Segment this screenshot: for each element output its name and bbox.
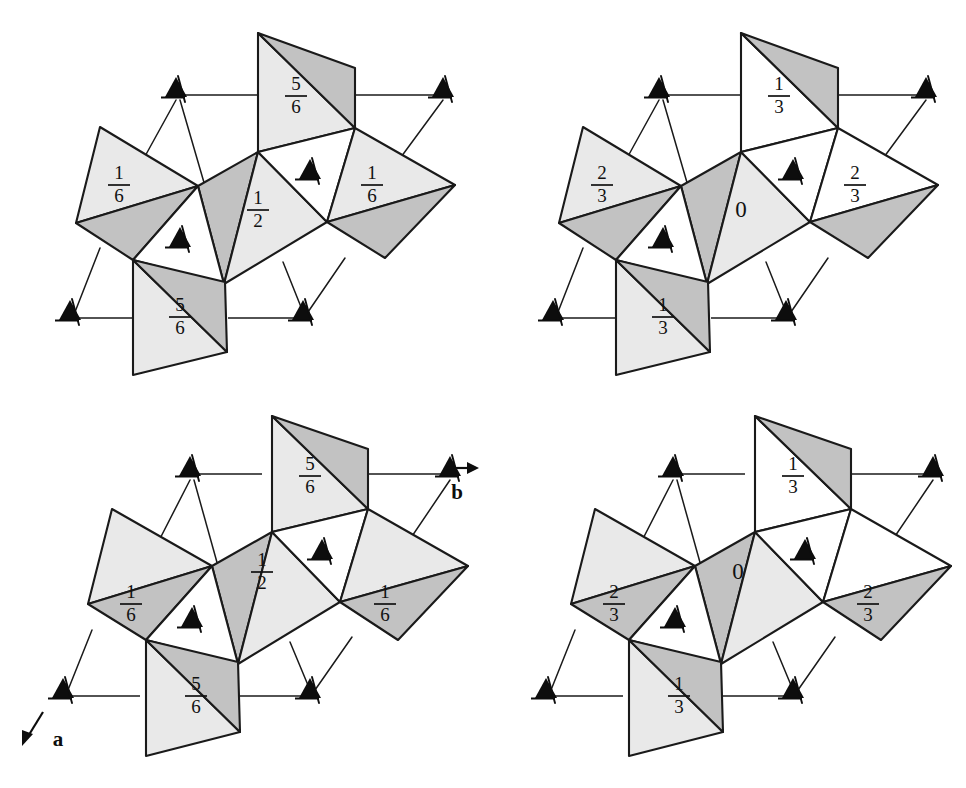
axis-b: b	[445, 462, 479, 504]
panel-bottom-left: 5 6 1 6 1 2 1 6 5 6	[22, 416, 468, 756]
svg-text:2: 2	[597, 162, 607, 183]
triad-axis-bottom-right	[295, 677, 321, 703]
svg-text:3: 3	[597, 185, 607, 206]
triad-axis-bottom-left	[531, 677, 557, 703]
svg-text:6: 6	[291, 96, 301, 117]
label-center-tetrahedron: 0	[735, 197, 747, 222]
triad-axis-bottom-right	[288, 299, 314, 325]
svg-text:3: 3	[850, 185, 860, 206]
svg-text:1: 1	[658, 294, 668, 315]
svg-text:2: 2	[257, 572, 267, 593]
triad-axis-bottom-right	[771, 299, 797, 325]
svg-text:1: 1	[774, 73, 784, 94]
figure-root: 5 6 1 6 1 2 1 6 5 6	[0, 0, 966, 788]
triad-axis-top-right	[911, 76, 937, 102]
svg-text:6: 6	[114, 185, 124, 206]
svg-text:b: b	[451, 480, 463, 504]
triad-axis-bottom-left	[48, 677, 74, 703]
svg-text:0: 0	[732, 559, 744, 584]
panel-bottom-right: 1 3 2 3 0 2 3 1 3	[445, 416, 951, 756]
svg-text:6: 6	[380, 604, 390, 625]
triad-axis-top-left	[644, 76, 670, 102]
triad-axis-bottom-right	[778, 677, 804, 703]
svg-text:3: 3	[609, 604, 619, 625]
svg-text:5: 5	[305, 453, 315, 474]
svg-text:5: 5	[291, 73, 301, 94]
svg-text:1: 1	[126, 581, 136, 602]
triad-axis-top-right	[918, 455, 944, 481]
triad-axis-bottom-left	[538, 299, 564, 325]
svg-text:5: 5	[191, 673, 201, 694]
svg-text:1: 1	[674, 673, 684, 694]
panel-top-right: 1 3 2 3 0 2 3 1 3	[538, 33, 938, 375]
svg-text:3: 3	[658, 317, 668, 338]
svg-text:2: 2	[609, 581, 619, 602]
svg-text:3: 3	[674, 696, 684, 717]
svg-text:0: 0	[735, 197, 747, 222]
triad-axis-top-right	[428, 76, 454, 102]
svg-text:1: 1	[114, 162, 124, 183]
panel-top-left: 5 6 1 6 1 2 1 6 5 6	[55, 33, 455, 375]
triad-axis-top-left	[175, 455, 201, 481]
svg-text:5: 5	[175, 294, 185, 315]
triad-axis-bottom-left	[55, 299, 81, 325]
svg-text:3: 3	[774, 96, 784, 117]
svg-text:1: 1	[380, 581, 390, 602]
svg-text:1: 1	[367, 162, 377, 183]
svg-text:6: 6	[175, 317, 185, 338]
svg-text:6: 6	[305, 476, 315, 497]
svg-text:2: 2	[863, 581, 873, 602]
svg-text:1: 1	[257, 549, 267, 570]
svg-text:2: 2	[850, 162, 860, 183]
label-center-tetrahedron: 0	[732, 559, 744, 584]
svg-text:3: 3	[788, 476, 798, 497]
svg-text:6: 6	[367, 185, 377, 206]
svg-text:2: 2	[253, 210, 263, 231]
svg-text:3: 3	[863, 604, 873, 625]
svg-text:6: 6	[191, 696, 201, 717]
axis-a: a	[22, 712, 64, 751]
triad-axis-top-left	[658, 455, 684, 481]
triad-axis-top-left	[161, 76, 187, 102]
svg-text:a: a	[53, 727, 64, 751]
structure-diagram: 5 6 1 6 1 2 1 6 5 6	[0, 0, 966, 788]
svg-text:1: 1	[788, 453, 798, 474]
svg-text:6: 6	[126, 604, 136, 625]
svg-text:1: 1	[253, 187, 263, 208]
